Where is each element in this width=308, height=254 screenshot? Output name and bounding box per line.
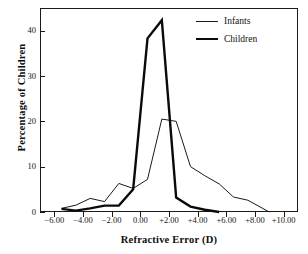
x-axis-tick-labels: −6.00−4.00−2.000.00+2.00+4.00+6.00+8.00+… [0,216,308,230]
x-tick-mark [112,212,113,217]
refractive-error-chart: 010203040 Percentage of Children −6.00−4… [0,0,308,254]
legend-label: Children [224,34,257,44]
y-tick-label: 0 [16,208,36,217]
y-tick-mark [40,76,45,77]
x-tick-mark [284,212,285,217]
x-tick-mark [226,212,227,217]
x-tick-mark [169,212,170,217]
legend-line-icon [196,38,218,40]
legend: InfantsChildren [196,12,296,48]
x-tick-mark [140,212,141,217]
y-tick-mark [40,121,45,122]
x-tick-mark [198,212,199,217]
x-axis-title: Refractive Error (D) [40,234,298,245]
y-tick-mark [40,212,45,213]
y-axis-title: Percentage of Children [16,18,27,178]
legend-item-infants: Infants [196,12,296,30]
x-tick-label: +10.00 [264,216,304,225]
legend-line-icon [196,21,218,22]
y-tick-mark [40,167,45,168]
legend-item-children: Children [196,30,296,48]
series-line-infants [62,119,270,212]
x-tick-mark [54,212,55,217]
legend-label: Infants [224,16,250,26]
series-line-children [62,20,220,212]
y-tick-mark [40,31,45,32]
x-tick-mark [255,212,256,217]
x-tick-mark [83,212,84,217]
